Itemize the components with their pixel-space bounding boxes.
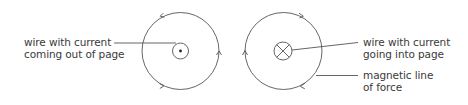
left-wire-label: wire with current coming out of page — [24, 36, 124, 60]
right-wire-label-line2: going into page — [363, 48, 450, 60]
right-wire-label-line1: wire with current — [363, 36, 450, 48]
arrow-icon — [160, 13, 164, 17]
right-field-group — [243, 13, 359, 90]
dot-icon — [179, 50, 182, 53]
field-line-label: magnetic line of force — [363, 69, 433, 93]
right-wire-leader-line — [292, 43, 358, 51]
field-line-label-line2: of force — [363, 81, 433, 93]
right-wire-label: wire with current going into page — [363, 36, 450, 60]
left-field-group — [114, 13, 222, 90]
field-line-label-line1: magnetic line — [363, 69, 433, 81]
arrow-icon — [160, 84, 164, 89]
left-wire-label-line2: coming out of page — [24, 48, 124, 60]
left-wire-label-line1: wire with current — [24, 36, 124, 48]
